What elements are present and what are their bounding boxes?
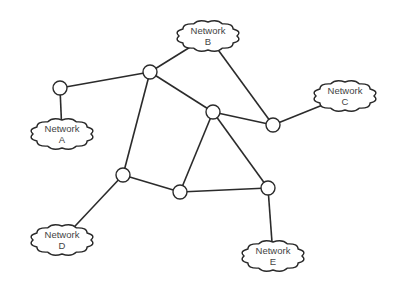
network-id: A xyxy=(59,134,66,145)
link-r1-r2 xyxy=(60,72,150,88)
link-r5-r6 xyxy=(123,175,180,192)
network-id: B xyxy=(205,36,211,47)
link-r2-r3 xyxy=(150,72,213,112)
router-node-r3 xyxy=(206,105,220,119)
network-c-cloud: NetworkC xyxy=(314,81,376,112)
network-label: Network xyxy=(256,245,291,256)
network-a-cloud: NetworkA xyxy=(31,119,93,150)
network-diagram: NetworkANetworkBNetworkCNetworkDNetworkE xyxy=(0,0,396,288)
network-label: Network xyxy=(45,229,80,240)
network-label: Network xyxy=(191,25,226,36)
router-node-r5 xyxy=(116,168,130,182)
router-node-r2 xyxy=(143,65,157,79)
network-d-cloud: NetworkD xyxy=(31,225,93,256)
network-label: Network xyxy=(328,85,363,96)
link-r3-r7 xyxy=(213,112,268,188)
network-b-cloud: NetworkB xyxy=(177,21,239,52)
network-id: E xyxy=(270,256,276,267)
links xyxy=(60,36,345,256)
networks: NetworkANetworkBNetworkCNetworkDNetworkE xyxy=(31,21,376,272)
router-node-r4 xyxy=(266,118,280,132)
network-e-cloud: NetworkE xyxy=(242,241,304,272)
router-node-r1 xyxy=(53,81,67,95)
link-r2-r5 xyxy=(123,72,150,175)
network-id: D xyxy=(59,240,66,251)
network-id: C xyxy=(342,96,349,107)
router-node-r7 xyxy=(261,181,275,195)
router-node-r6 xyxy=(173,185,187,199)
link-r6-r7 xyxy=(180,188,268,192)
link-r3-r6 xyxy=(180,112,213,192)
network-label: Network xyxy=(45,123,80,134)
